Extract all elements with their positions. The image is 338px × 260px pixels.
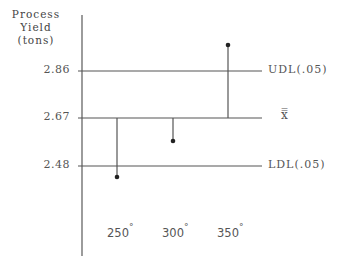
x-tick-300-value: 300: [162, 226, 184, 240]
degree-symbol: °: [129, 222, 134, 232]
x-tick-300: 300°: [162, 224, 188, 240]
data-point-300: [171, 139, 176, 144]
chart-plot-area: [0, 0, 338, 260]
center-label: x̿: [281, 108, 289, 122]
degree-symbol: °: [184, 222, 189, 232]
data-point-350: [226, 43, 231, 48]
degree-symbol: °: [239, 222, 244, 232]
udl-label: UDL(.05): [268, 63, 327, 76]
data-point-250: [115, 175, 120, 180]
x-tick-350: 350°: [217, 224, 243, 240]
x-tick-350-value: 350: [217, 226, 239, 240]
x-tick-250-value: 250: [107, 226, 129, 240]
x-tick-250: 250°: [107, 224, 133, 240]
ldl-label: LDL(.05): [268, 158, 326, 171]
